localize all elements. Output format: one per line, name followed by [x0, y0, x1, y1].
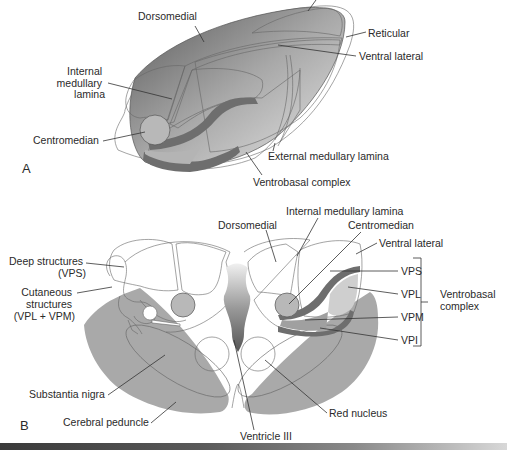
label-dorsomedial-b: Dorsomedial: [218, 219, 277, 231]
label-centromedian-a: Centromedian: [33, 134, 99, 146]
label-line: complex: [440, 300, 480, 312]
label-deep-structures-b: Deep structures (VPS): [9, 255, 86, 279]
red-nucleus-right: [241, 337, 275, 371]
leader-ventral-lateral-b: [356, 243, 377, 254]
leader-reticular-a: [346, 32, 366, 37]
label-external-medullary-a: External medullary lamina: [268, 150, 389, 162]
left-dorsomedial: [176, 243, 226, 295]
label-substantia-nigra-b: Substantia nigra: [29, 388, 105, 400]
label-line: structures: [26, 298, 72, 310]
panel-a: Dorsomedial Reticular Ventral lateral In…: [22, 0, 423, 188]
thalamus-figure: Dorsomedial Reticular Ventral lateral In…: [0, 0, 507, 450]
leader-internal-medullary-b: [297, 218, 318, 256]
label-line: lamina: [74, 88, 105, 100]
leader-dorsomedial-b: [266, 230, 276, 262]
leader-deep-structures-b: [86, 263, 124, 267]
centromedian-circle: [140, 115, 170, 145]
leader-cutaneous-b: [77, 287, 112, 293]
panel-letter-a: A: [22, 161, 31, 176]
label-cutaneous-b: Cutaneous structures (VPL + VPM): [14, 286, 75, 322]
left-lateral-thalamus: [110, 239, 179, 290]
label-ventrobasal-a: Ventrobasal complex: [253, 176, 351, 188]
label-dorsomedial-a: Dorsomedial: [138, 10, 197, 22]
label-line: (VPL + VPM): [14, 310, 75, 322]
label-centromedian-b: Centromedian: [348, 219, 414, 231]
label-internal-medullary-a: Internal medullary lamina: [57, 65, 106, 100]
label-reticular-a: Reticular: [368, 27, 410, 39]
label-vpi-b: VPI: [401, 334, 418, 346]
label-line: Internal: [67, 65, 102, 77]
label-ventral-lateral-a: Ventral lateral: [359, 50, 423, 62]
label-cerebral-peduncle-b: Cerebral peduncle: [63, 416, 149, 428]
cerebral-peduncle-left: [84, 288, 229, 413]
leader-ventrobasal-a: [246, 152, 262, 175]
label-line: Deep structures: [9, 255, 83, 267]
label-line: Ventrobasal: [440, 288, 495, 300]
panel-b: Internal medullary lamina Dorsomedial Ce…: [9, 205, 498, 442]
label-vps-b: VPS: [401, 265, 422, 277]
label-vpm-b: VPM: [401, 311, 424, 323]
label-ventral-lateral-b: Ventral lateral: [379, 237, 443, 249]
label-internal-medullary-b: Internal medullary lamina: [286, 205, 403, 217]
label-vpl-b: VPL: [401, 288, 421, 300]
leader-ventricle-b: [234, 340, 254, 430]
label-ventricle-b: Ventricle III: [240, 430, 292, 442]
page-edge-shadow: [0, 443, 507, 450]
label-red-nucleus-b: Red nucleus: [329, 407, 387, 419]
label-line: (VPS): [58, 267, 86, 279]
centromedian-right: [275, 293, 299, 317]
panel-letter-b: B: [20, 418, 29, 433]
ventricle-iii-shape: [224, 264, 251, 353]
label-ventrobasal-b: Ventrobasal complex: [440, 288, 498, 312]
centromedian-left: [171, 293, 195, 317]
label-line: Cutaneous: [21, 286, 72, 298]
